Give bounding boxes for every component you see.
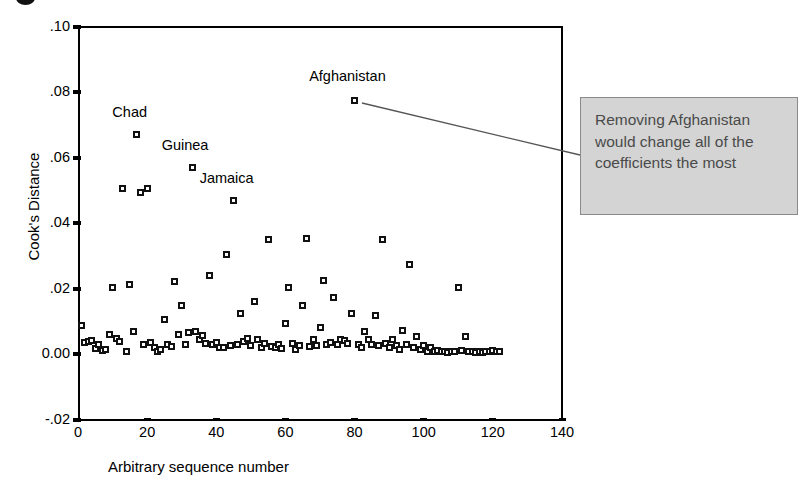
data-point xyxy=(133,131,140,138)
x-tick-label: 40 xyxy=(193,424,239,440)
point-label-jamaica: Jamaica xyxy=(200,170,254,186)
data-point xyxy=(399,327,406,334)
data-point xyxy=(285,284,292,291)
x-tick-label: 80 xyxy=(332,424,378,440)
y-tick-mark xyxy=(73,418,81,422)
x-tick-mark xyxy=(351,418,358,421)
y-tick-mark xyxy=(73,90,81,94)
data-point xyxy=(296,342,303,349)
y-tick-label: .10 xyxy=(0,19,70,33)
data-point xyxy=(348,310,355,317)
y-tick-label: 0.00 xyxy=(0,346,70,360)
data-point xyxy=(313,342,320,349)
data-point xyxy=(126,281,133,288)
x-axis-title: Arbitrary sequence number xyxy=(108,458,289,475)
y-tick-label: .08 xyxy=(0,84,70,98)
data-point xyxy=(223,251,230,258)
data-point xyxy=(171,278,178,285)
data-point xyxy=(351,97,358,104)
data-point xyxy=(265,236,272,243)
x-tick-mark xyxy=(420,418,427,421)
data-point xyxy=(237,310,244,317)
plot-top-border xyxy=(78,26,563,28)
data-point xyxy=(130,328,137,335)
data-point xyxy=(119,185,126,192)
data-point xyxy=(78,322,85,329)
data-point xyxy=(278,345,285,352)
x-tick-label: 100 xyxy=(401,424,447,440)
x-tick-label: 0 xyxy=(55,424,101,440)
callout-text: Removing Afghanistan would change all of… xyxy=(595,109,791,174)
data-point xyxy=(379,236,386,243)
x-tick-mark xyxy=(144,418,151,421)
data-point xyxy=(406,261,413,268)
data-point xyxy=(303,235,310,242)
y-tick-mark xyxy=(73,352,81,356)
point-label-chad: Chad xyxy=(112,104,147,120)
data-point xyxy=(247,342,254,349)
chart-canvas: .10.08.06.04.020.00-.02 0204060801001201… xyxy=(0,0,805,494)
data-point xyxy=(455,284,462,291)
x-tick-label: 60 xyxy=(262,424,308,440)
data-point xyxy=(358,344,365,351)
data-point xyxy=(144,185,151,192)
data-point xyxy=(462,333,469,340)
data-point xyxy=(168,343,175,350)
data-point xyxy=(496,348,503,355)
x-tick-label: 140 xyxy=(539,424,585,440)
data-point xyxy=(317,324,324,331)
data-point xyxy=(175,331,182,338)
data-point xyxy=(102,346,109,353)
data-point xyxy=(206,272,213,279)
x-tick-mark xyxy=(213,418,220,421)
data-point xyxy=(251,298,258,305)
data-point xyxy=(361,328,368,335)
data-point xyxy=(413,333,420,340)
point-label-guinea: Guinea xyxy=(162,137,209,153)
data-point xyxy=(178,302,185,309)
x-tick-mark xyxy=(559,418,566,421)
plot-right-border xyxy=(561,26,563,420)
data-point xyxy=(330,294,337,301)
data-point xyxy=(123,348,130,355)
data-point xyxy=(299,302,306,309)
data-point xyxy=(109,284,116,291)
cropped-glyph xyxy=(16,0,35,5)
data-point xyxy=(189,164,196,171)
y-axis-title: Cook's Distance xyxy=(25,112,42,302)
x-tick-mark xyxy=(489,418,496,421)
x-tick-label: 120 xyxy=(470,424,516,440)
data-point xyxy=(244,335,251,342)
data-point xyxy=(372,312,379,319)
x-tick-mark xyxy=(282,418,289,421)
data-point xyxy=(182,341,189,348)
y-tick-mark xyxy=(73,156,81,160)
data-point xyxy=(230,197,237,204)
data-point xyxy=(161,316,168,323)
y-tick-mark xyxy=(73,287,81,291)
data-point xyxy=(116,338,123,345)
data-point xyxy=(344,340,351,347)
y-tick-mark xyxy=(73,221,81,225)
x-tick-label: 20 xyxy=(124,424,170,440)
data-point xyxy=(199,332,206,339)
data-point xyxy=(320,277,327,284)
point-label-afghanistan: Afghanistan xyxy=(309,68,386,84)
y-tick-mark xyxy=(73,25,81,29)
callout-box: Removing Afghanistan would change all of… xyxy=(580,97,798,215)
data-point xyxy=(282,320,289,327)
